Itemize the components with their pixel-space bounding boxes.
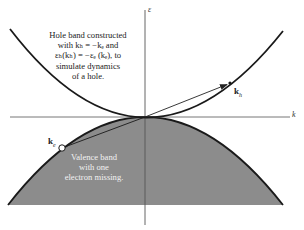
electron-label-subscript: e <box>53 142 56 148</box>
hole-annotation-line-3: εₕ(kₕ) = −εₑ (kₑ), to <box>38 50 138 60</box>
valence-band-annotation: Valence band with one electron missing. <box>58 152 130 183</box>
hole-vector-arrow <box>145 85 227 118</box>
valence-annotation-line-3: electron missing. <box>58 172 130 182</box>
hole-annotation-line-2: with kₕ = −kₑ and <box>38 40 138 50</box>
hole-band-annotation: Hole band constructed with kₕ = −kₑ and … <box>38 30 138 81</box>
hole-label-subscript: h <box>239 92 242 98</box>
k-axis-label: k <box>292 110 296 119</box>
valence-annotation-line-1: Valence band <box>58 152 130 162</box>
valence-annotation-line-2: with one <box>58 162 130 172</box>
electron-point-label: ke <box>48 136 56 148</box>
hole-annotation-line-1: Hole band constructed <box>38 30 138 40</box>
hole-annotation-line-5: of a hole. <box>38 71 138 81</box>
hole-point-marker <box>228 81 231 84</box>
hole-annotation-line-4: simulate dynamics <box>38 61 138 71</box>
band-diagram: ε k Hole band constructed with kₕ = −kₑ … <box>0 0 304 230</box>
missing-electron-marker <box>59 145 65 151</box>
epsilon-axis-label: ε <box>148 5 151 14</box>
hole-point-label: kh <box>234 86 242 98</box>
